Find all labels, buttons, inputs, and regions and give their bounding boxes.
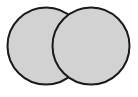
venn-diagram-figure bbox=[0, 0, 138, 97]
venn-diagram-canvas bbox=[0, 0, 138, 97]
venn-circle-right bbox=[53, 8, 130, 85]
